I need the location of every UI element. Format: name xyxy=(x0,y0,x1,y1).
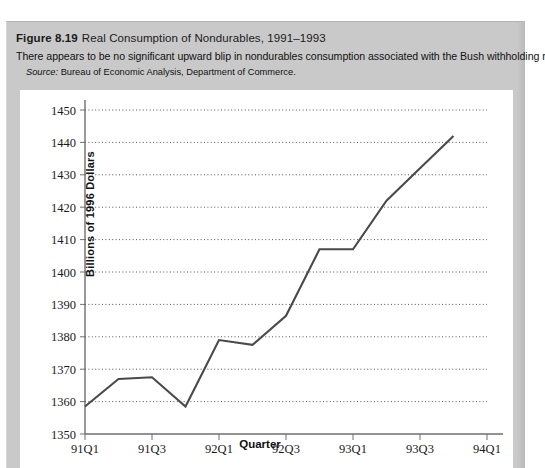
y-tick-label: 1400 xyxy=(51,266,76,280)
y-tick-label: 1420 xyxy=(51,201,76,215)
y-tick-label: 1410 xyxy=(51,233,76,247)
y-tick-label: 1380 xyxy=(51,330,76,344)
figure-number: Figure 8.19 xyxy=(16,32,78,44)
y-tick-label: 1450 xyxy=(51,104,76,118)
y-tick-label: 1360 xyxy=(51,395,76,409)
y-axis-title: Billions of 1996 Dollars xyxy=(84,134,96,294)
y-tick-label: 1370 xyxy=(51,363,76,377)
figure-title-line: Figure 8.19Real Consumption of Nondurabl… xyxy=(16,32,516,44)
y-tick-label: 1430 xyxy=(51,168,76,182)
y-tick-label: 1390 xyxy=(51,298,76,312)
figure-title: Real Consumption of Nondurables, 1991–19… xyxy=(82,32,326,44)
x-axis-title: Quarter xyxy=(20,438,500,450)
figure-description: There appears to be no significant upwar… xyxy=(16,50,516,62)
source-label: Source: xyxy=(26,67,58,77)
y-tick-label: 1440 xyxy=(51,136,76,150)
figure-screenshot: Figure 8.19Real Consumption of Nondurabl… xyxy=(0,0,545,468)
source-text: Bureau of Economic Analysis, Department … xyxy=(61,67,296,77)
data-series-line xyxy=(85,136,454,407)
figure-source: Source: Bureau of Economic Analysis, Dep… xyxy=(26,67,516,77)
chart-panel: 1450144014301420141014001390138013701360… xyxy=(20,90,513,468)
figure-caption: Figure 8.19Real Consumption of Nondurabl… xyxy=(16,32,516,77)
